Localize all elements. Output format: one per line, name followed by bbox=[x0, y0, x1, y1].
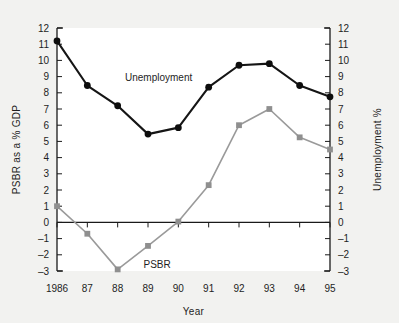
left-axis-tick-label: 8 bbox=[43, 87, 49, 98]
chart-figure: –3–3–2–2–1–10011223344556677889910101111… bbox=[0, 0, 399, 323]
data-point-psbr bbox=[206, 182, 212, 188]
x-axis-tick-label: 94 bbox=[294, 283, 306, 294]
left-axis-tick-label: 2 bbox=[43, 185, 49, 196]
left-axis-tick-label: 11 bbox=[39, 39, 50, 50]
right-axis-tick-label: 6 bbox=[338, 120, 344, 131]
x-axis-tick-label: 95 bbox=[324, 283, 336, 294]
series-label-psbr: PSBR bbox=[143, 259, 170, 270]
data-point-psbr bbox=[175, 219, 181, 225]
left-axis-tick-label: 9 bbox=[43, 71, 49, 82]
right-axis-tick-label: 7 bbox=[338, 104, 344, 115]
x-axis-tick-label: 91 bbox=[203, 283, 215, 294]
right-axis-tick-label: 11 bbox=[338, 39, 349, 50]
data-point-psbr bbox=[327, 147, 333, 153]
right-axis-title: Unemployment % bbox=[372, 108, 383, 191]
data-point-psbr bbox=[115, 266, 121, 272]
data-point-unemployment bbox=[296, 82, 303, 89]
left-axis-title: PSBR as a % GDP bbox=[11, 105, 22, 195]
x-axis-tick-label: 89 bbox=[142, 283, 154, 294]
data-point-psbr bbox=[266, 106, 272, 112]
right-axis-tick-label: –3 bbox=[338, 266, 350, 277]
line-chart: –3–3–2–2–1–10011223344556677889910101111… bbox=[0, 0, 399, 323]
data-point-psbr bbox=[297, 134, 303, 140]
data-point-psbr bbox=[54, 203, 60, 209]
right-axis-tick-label: 2 bbox=[338, 185, 344, 196]
data-point-unemployment bbox=[175, 124, 182, 131]
left-axis-tick-label: 10 bbox=[38, 55, 50, 66]
data-point-unemployment bbox=[327, 93, 334, 100]
x-axis-tick-label: 93 bbox=[264, 283, 276, 294]
data-point-unemployment bbox=[205, 84, 212, 91]
data-point-psbr bbox=[84, 231, 90, 237]
data-point-unemployment bbox=[145, 131, 152, 138]
x-axis-tick-label: 92 bbox=[233, 283, 245, 294]
right-axis-tick-label: –2 bbox=[338, 249, 350, 260]
x-axis-title: Year bbox=[183, 306, 205, 317]
x-axis-tick-label: 87 bbox=[82, 283, 94, 294]
data-point-unemployment bbox=[84, 82, 91, 89]
right-axis-tick-label: –1 bbox=[338, 233, 350, 244]
data-point-unemployment bbox=[114, 102, 121, 109]
data-point-psbr bbox=[145, 243, 151, 249]
left-axis-tick-label: 7 bbox=[43, 104, 49, 115]
data-point-unemployment bbox=[266, 60, 273, 67]
x-axis-tick-label: 90 bbox=[173, 283, 185, 294]
data-point-unemployment bbox=[54, 38, 61, 45]
x-axis-tick-label: 1986 bbox=[46, 283, 69, 294]
data-point-psbr bbox=[236, 122, 242, 128]
right-axis-tick-label: 0 bbox=[338, 217, 344, 228]
left-axis-tick-label: 3 bbox=[43, 168, 49, 179]
left-axis-tick-label: 1 bbox=[43, 201, 49, 212]
right-axis-tick-label: 4 bbox=[338, 152, 344, 163]
left-axis-tick-label: 0 bbox=[43, 217, 49, 228]
left-axis-tick-label: –3 bbox=[38, 266, 50, 277]
x-axis-tick-label: 88 bbox=[112, 283, 124, 294]
right-axis-tick-label: 1 bbox=[338, 201, 344, 212]
right-axis-tick-label: 3 bbox=[338, 168, 344, 179]
series-label-unemployment: Unemployment bbox=[125, 72, 192, 83]
left-axis-tick-label: 5 bbox=[43, 136, 49, 147]
left-axis-tick-label: –1 bbox=[38, 233, 50, 244]
right-axis-tick-label: 12 bbox=[338, 23, 350, 34]
left-axis-tick-label: 12 bbox=[38, 23, 50, 34]
right-axis-tick-label: 9 bbox=[338, 71, 344, 82]
right-axis-tick-label: 5 bbox=[338, 136, 344, 147]
left-axis-tick-label: –2 bbox=[38, 249, 50, 260]
right-axis-tick-label: 10 bbox=[338, 55, 350, 66]
plot-area-background bbox=[57, 28, 330, 271]
left-axis-tick-label: 4 bbox=[43, 152, 49, 163]
right-axis-tick-label: 8 bbox=[338, 87, 344, 98]
left-axis-tick-label: 6 bbox=[43, 120, 49, 131]
data-point-unemployment bbox=[236, 62, 243, 69]
